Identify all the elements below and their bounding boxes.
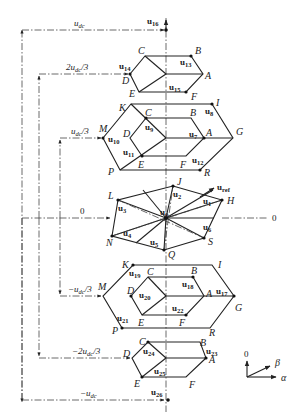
svg-text:H: H xyxy=(226,195,235,206)
svg-text:G: G xyxy=(235,302,242,313)
zero-right-label: 0 xyxy=(272,213,277,223)
space-vector-diagram: udc 2udc/3 udc/3 0 −udc/3 −2udc/3 −udc 0… xyxy=(0,0,304,420)
svg-text:F: F xyxy=(188,379,196,390)
svg-text:u2: u2 xyxy=(173,189,181,200)
svg-text:D: D xyxy=(122,348,131,359)
svg-text:u21: u21 xyxy=(117,313,129,324)
svg-text:S: S xyxy=(208,236,213,247)
svg-text:C: C xyxy=(138,45,145,56)
level-label-udc3: udc/3 xyxy=(71,126,89,137)
hexagon-2udc3: C B A F E D u13 u14 u15 xyxy=(119,45,212,102)
level-label-udc: udc xyxy=(74,18,85,29)
legend-zero-axis-label: 0 xyxy=(244,349,249,359)
svg-text:E: E xyxy=(133,378,140,389)
svg-text:F: F xyxy=(190,91,198,102)
axes-legend: 0 β α xyxy=(244,349,287,383)
svg-text:u11: u11 xyxy=(123,147,134,158)
svg-text:P: P xyxy=(107,166,114,177)
vector-label-u16: u16 xyxy=(147,16,159,27)
svg-text:A: A xyxy=(205,127,213,138)
svg-text:M: M xyxy=(98,123,108,134)
svg-text:R: R xyxy=(208,327,215,338)
svg-text:G: G xyxy=(236,126,243,137)
svg-text:u3: u3 xyxy=(118,203,127,214)
svg-text:A: A xyxy=(204,70,212,81)
svg-text:L: L xyxy=(107,190,114,201)
hexagon-mudc3: K I C B M D A G E F P R u19 u18 u17 u20 … xyxy=(97,259,242,338)
svg-text:u10: u10 xyxy=(108,134,120,145)
legend-beta-label: β xyxy=(274,357,280,368)
svg-text:I: I xyxy=(215,97,220,108)
svg-text:u5: u5 xyxy=(150,237,159,248)
level-mudc-point: u26 xyxy=(151,387,170,402)
svg-text:u9: u9 xyxy=(145,122,154,133)
svg-text:E: E xyxy=(128,88,135,99)
svg-text:u20: u20 xyxy=(139,290,151,301)
svg-text:F: F xyxy=(178,317,186,328)
svg-text:E: E xyxy=(137,317,144,328)
svg-text:B: B xyxy=(190,107,196,118)
svg-text:R: R xyxy=(203,167,210,178)
svg-text:u7: u7 xyxy=(189,129,198,140)
svg-text:A: A xyxy=(205,288,213,299)
svg-text:J: J xyxy=(177,176,182,187)
svg-text:K: K xyxy=(118,102,127,113)
vector-label-u26: u26 xyxy=(151,387,163,398)
svg-text:D: D xyxy=(121,75,130,86)
svg-text:N: N xyxy=(105,237,114,248)
svg-text:u22: u22 xyxy=(172,303,184,314)
svg-text:u23: u23 xyxy=(206,346,218,357)
svg-text:I: I xyxy=(217,259,222,270)
svg-text:u25: u25 xyxy=(154,366,166,377)
level-label-m2udc3: −2udc/3 xyxy=(72,346,101,357)
svg-text:u17: u17 xyxy=(216,286,228,297)
svg-text:u12: u12 xyxy=(192,155,204,166)
svg-text:C: C xyxy=(145,107,152,118)
svg-text:uref: uref xyxy=(217,182,231,193)
svg-text:u14: u14 xyxy=(119,61,131,72)
svg-text:D: D xyxy=(126,285,135,296)
legend-alpha-label: α xyxy=(281,372,287,383)
svg-text:C: C xyxy=(147,266,154,277)
hexagon-m2udc3: C B A F E D u23 u24 u25 xyxy=(122,336,218,390)
svg-text:B: B xyxy=(191,265,197,276)
svg-text:D: D xyxy=(122,128,131,139)
svg-text:u18: u18 xyxy=(182,279,194,290)
svg-text:u0: u0 xyxy=(160,207,168,218)
svg-text:u8: u8 xyxy=(205,106,214,117)
svg-text:M: M xyxy=(97,281,107,292)
level-label-zero: 0 xyxy=(80,206,85,216)
hexagon-udc3: K I C B A G M D E F P R u8 u9 u7 u10 u11… xyxy=(98,97,243,178)
level-label-mudc: −udc xyxy=(80,388,97,399)
svg-text:u19: u19 xyxy=(129,268,141,279)
svg-text:Q: Q xyxy=(168,249,176,260)
svg-text:u15: u15 xyxy=(169,82,181,93)
svg-text:E: E xyxy=(137,159,144,170)
svg-text:F: F xyxy=(179,159,187,170)
level-udc-point: u16 xyxy=(147,16,168,32)
level-label-2udc3: 2udc/3 xyxy=(66,62,89,73)
hexagon-zero: J H S Q N L uref u2 u1 u3 u0 u6 u4 u5 xyxy=(105,176,235,260)
svg-text:B: B xyxy=(195,45,201,56)
svg-text:u24: u24 xyxy=(143,346,155,357)
level-label-mudc3: −udc/3 xyxy=(68,284,92,295)
svg-text:u13: u13 xyxy=(180,57,192,68)
svg-text:P: P xyxy=(111,325,118,336)
svg-text:u1: u1 xyxy=(203,196,211,207)
